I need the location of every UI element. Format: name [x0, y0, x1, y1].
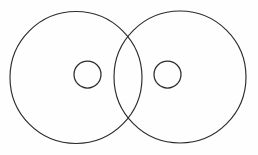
- diagram-svg: [0, 0, 258, 155]
- diagram-canvas: [0, 0, 258, 155]
